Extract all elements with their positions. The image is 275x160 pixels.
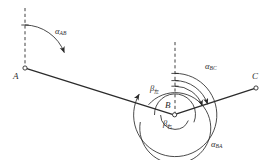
angle-label-alpha-AB: αAB <box>55 27 67 37</box>
angle-label-beta-left: β左 <box>150 84 159 94</box>
point-label-A: A <box>13 72 19 81</box>
arc-beta-right-2 <box>175 121 188 130</box>
station-marker-A <box>23 66 27 70</box>
angle-label-alpha-BC: αBC <box>205 62 217 72</box>
point-label-C: C <box>252 72 258 81</box>
traverse-angle-diagram: A B C αAB αBC αBA β左 β右 <box>0 0 275 160</box>
point-label-B: B <box>165 101 171 110</box>
angle-label-beta-right: β右 <box>163 119 172 129</box>
angle-label-alpha-BA: αBA <box>211 140 223 150</box>
station-marker-C <box>254 86 258 90</box>
diagram-canvas <box>0 0 275 160</box>
beta-right-subscript: 右 <box>167 123 172 129</box>
beta-left-subscript: 左 <box>154 88 159 94</box>
station-marker-B <box>173 113 177 117</box>
alpha-BA-subscript: BA <box>215 143 222 149</box>
alpha-AB-subscript: AB <box>59 30 66 36</box>
alpha-BC-subscript: BC <box>209 65 216 71</box>
